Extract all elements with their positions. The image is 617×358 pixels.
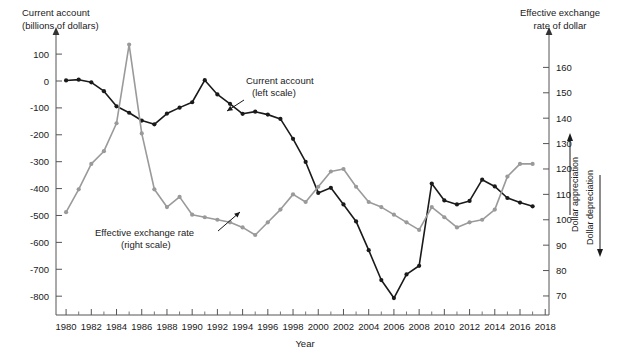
data-point [493,208,497,212]
left-axis-tick-label: 0 [44,76,49,87]
data-point [455,202,459,206]
x-axis-tick-label: 2008 [409,321,430,332]
data-point [392,296,396,300]
exchange-rate-annotation-line2: (right scale) [121,239,171,250]
x-axis-tick-label: 1996 [257,321,278,332]
current-account-annotation-line2: (left scale) [252,87,296,98]
data-point [203,78,207,82]
data-point [152,122,156,126]
right-axis-tick-label: 90 [556,240,567,251]
data-point [518,162,522,166]
left-axis-tick-label: -700 [30,264,49,275]
data-point [165,111,169,115]
data-point [127,42,131,46]
data-point [114,104,118,108]
data-point [253,233,257,237]
right-axis-tick-label: 150 [556,87,572,98]
right-axis-tick-label: 70 [556,290,567,301]
data-point [518,200,522,204]
left-axis-tick-label: -500 [30,210,49,221]
data-point [228,102,232,106]
x-axis-tick-label: 1980 [56,321,77,332]
data-point [467,199,471,203]
left-axis-tick-label: 100 [33,49,49,60]
axes: 1000-100-200-300-400-500-600-700-8001601… [30,27,603,332]
series-annotations: Current account(left scale)Effective exc… [95,75,314,250]
data-point [316,191,320,195]
data-point [304,160,308,164]
data-point [367,200,371,204]
data-point [367,248,371,252]
data-point [89,80,93,84]
x-axis-tick-label: 1984 [106,321,127,332]
x-axis-tick-label: 1988 [156,321,177,332]
left-axis-tick-label: -200 [30,129,49,140]
data-point [493,184,497,188]
left-axis-tick-label: -400 [30,183,49,194]
data-point [430,181,434,185]
data-point [203,215,207,219]
data-point [241,112,245,116]
data-point [102,149,106,153]
left-axis-tick-label: -100 [30,102,49,113]
data-point [64,78,68,82]
series-line-right [66,45,533,235]
data-point [304,200,308,204]
right-axis-tick-label: 140 [556,113,572,124]
series-line-left [66,80,533,298]
right-axis-title-line1: Effective exchange [520,7,600,18]
data-point [77,78,81,82]
dollar-appreciation-label: Dollar appreciation [570,157,580,232]
data-point [467,220,471,224]
x-axis-tick-label: 1982 [81,321,102,332]
data-point [316,185,320,189]
data-point [329,169,333,173]
data-point [341,202,345,206]
data-point [480,178,484,182]
left-axis-tick-label: -300 [30,156,49,167]
right-axis-tick-label: 160 [556,62,572,73]
data-point [392,213,396,217]
x-axis-tick-label: 2004 [358,321,379,332]
left-axis-tick-label: -800 [30,291,49,302]
data-point [215,218,219,222]
data-point [442,215,446,219]
current-account-exchange-rate-chart: Current account (billions of dollars) Ef… [0,0,617,358]
data-point [77,187,81,191]
data-point [291,137,295,141]
data-point [140,131,144,135]
data-point [505,196,509,200]
left-axis-title-line2: (billions of dollars) [22,20,99,31]
data-point [266,220,270,224]
data-point [64,210,68,214]
data-point [354,185,358,189]
data-point [152,187,156,191]
data-point [404,272,408,276]
data-point [127,111,131,115]
x-axis-tick-label: 2016 [509,321,530,332]
x-axis-tick-label: 1992 [207,321,228,332]
data-point [190,100,194,104]
chart-svg: Current account (billions of dollars) Ef… [0,0,617,358]
data-point [531,162,535,166]
x-axis-tick-label: 2006 [383,321,404,332]
data-point [215,92,219,96]
data-point [430,205,434,209]
data-point [89,162,93,166]
x-axis-tick-label: 1994 [232,321,253,332]
data-point [253,110,257,114]
data-point [379,205,383,209]
x-axis-tick-label: 2012 [459,321,480,332]
data-point [291,192,295,196]
x-axis-tick-label: 1986 [131,321,152,332]
current-account-leader-head [227,106,233,111]
data-point [417,264,421,268]
x-axis-tick-label: 2018 [535,321,556,332]
data-point [177,106,181,110]
x-axis-tick-label: 1998 [282,321,303,332]
data-point [404,220,408,224]
data-point [114,121,118,125]
exchange-rate-annotation-line1: Effective exchange rate [95,227,194,238]
x-axis-tick-label: 2010 [434,321,455,332]
x-axis-tick-label: 2002 [333,321,354,332]
